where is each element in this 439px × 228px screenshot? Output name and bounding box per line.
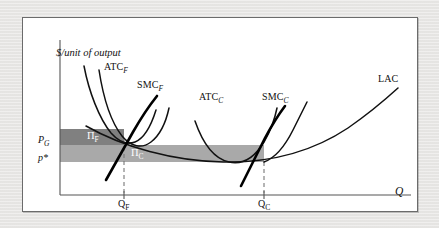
curve-label-atc-c: ATCC <box>199 91 223 105</box>
tick-label-qc: QC <box>258 198 270 212</box>
curve-label-lac-main: LAC <box>378 73 398 84</box>
smc-c-inner-branch <box>264 102 307 162</box>
region-label-profit-core-sub: C <box>139 152 144 161</box>
region-label-profit-core: ΠC <box>131 147 144 161</box>
curve-label-atc-c-sub: C <box>218 96 223 105</box>
tick-label-qf-sub: F <box>125 203 129 212</box>
tick-label-qc-sub: C <box>265 203 270 212</box>
curve-label-smc-c-main: SMC <box>262 91 283 102</box>
price-label-pg-sub: G <box>44 139 49 148</box>
profit-region-core-rect <box>60 145 264 162</box>
region-label-profit-fringe-sub: F <box>95 135 99 144</box>
curve-label-smc-c-sub: C <box>283 96 288 105</box>
curve-label-smc-f-main: SMC <box>137 79 158 90</box>
curve-label-atc-c-main: ATC <box>199 91 218 102</box>
price-label-pstar-main: p* <box>38 152 48 163</box>
price-label-pg: PG <box>38 134 50 148</box>
curve-label-atc-f-main: ATC <box>104 61 123 72</box>
curve-label-smc-f-sub: F <box>158 84 163 93</box>
region-label-profit-core-main: Π <box>131 147 139 158</box>
region-label-profit-fringe: ΠF <box>87 130 99 144</box>
figure-root: $/unit of output Q PG p* QF QC ATCF SMCF… <box>0 0 439 228</box>
curve-label-atc-f-sub: F <box>123 66 128 75</box>
y-axis-label: $/unit of output <box>56 47 121 58</box>
price-label-pstar: p* <box>38 152 48 163</box>
curve-label-smc-f: SMCF <box>137 79 163 93</box>
curve-label-lac: LAC <box>378 73 398 84</box>
curve-label-atc-f: ATCF <box>104 61 128 75</box>
curve-label-smc-c: SMCC <box>262 91 289 105</box>
x-axis-label: Q <box>395 185 403 197</box>
figure-panel: $/unit of output Q PG p* QF QC ATCF SMCF… <box>22 17 418 212</box>
tick-label-qf: QF <box>118 198 129 212</box>
region-label-profit-fringe-main: Π <box>87 130 95 141</box>
